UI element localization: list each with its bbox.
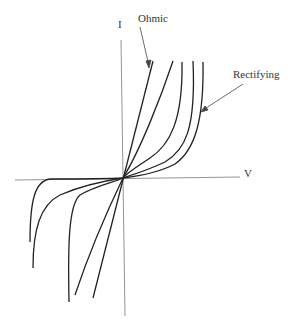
ohmic-arrow — [140, 27, 149, 66]
iv-diagram: I V Ohmic Rectifying — [0, 0, 290, 321]
ohmic-arrowhead — [146, 60, 151, 68]
rectifying-arrowhead — [201, 106, 208, 112]
rectifying-label: Rectifying — [233, 68, 279, 80]
x-axis-label: V — [244, 167, 252, 179]
rectifying-arrow — [203, 84, 243, 110]
ohmic-label: Ohmic — [138, 12, 168, 24]
y-axis-label: I — [118, 18, 122, 30]
curve-4 — [33, 61, 193, 268]
iv-plot — [0, 0, 290, 321]
